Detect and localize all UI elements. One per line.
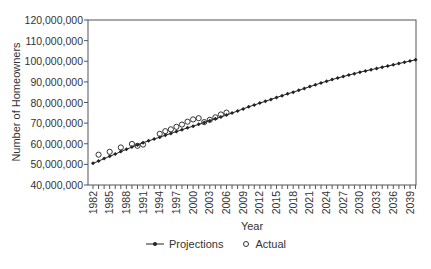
plot-area-frame [88,20,416,185]
projection-point [180,128,184,132]
actual-point [107,149,112,154]
y-tick-label: 90,000,000 [30,76,83,88]
projection-point [147,139,151,143]
projection-point [386,64,390,68]
projection-point [297,88,301,92]
x-tick-label: 2024 [320,191,332,215]
legend-label-projections: Projections [169,238,223,250]
actual-point [168,127,173,132]
projection-point [341,75,345,79]
projection-point [286,92,290,96]
projection-point [186,126,190,130]
x-tick-label: 2036 [387,191,399,215]
projection-point [358,70,362,74]
actual-point [174,124,179,129]
legend: Projections Actual [0,238,431,250]
projection-point [375,66,379,70]
x-tick-label: 2009 [237,191,249,215]
y-tick-label: 70,000,000 [30,117,83,129]
x-tick-label: 2003 [203,191,215,215]
projection-point [402,60,406,64]
projection-point [414,58,418,62]
projection-point [191,124,195,128]
legend-item-projections: Projections [145,238,223,250]
actual-point [191,117,196,122]
y-tick-label: 40,000,000 [30,179,83,191]
projection-point [380,65,384,69]
projection-point [97,159,101,163]
projection-point [308,85,312,89]
projection-point [236,109,240,113]
projection-point [291,90,295,94]
actual-point [163,129,168,134]
projection-point [369,68,373,72]
x-axis-label: Year [241,220,264,232]
x-tick-label: 1991 [137,191,149,215]
y-tick-label: 120,000,000 [25,14,84,26]
actual-point [185,119,190,124]
y-tick-label: 50,000,000 [30,158,83,170]
x-tick-label: 2018 [287,191,299,215]
y-tick-label: 80,000,000 [30,97,83,109]
x-tick-label: 2021 [303,191,315,215]
projection-point [352,72,356,76]
actual-marker-icon [241,239,251,249]
y-axis-label: Number of Homeowners [10,42,22,162]
projection-point [408,59,412,63]
y-tick-label: 60,000,000 [30,138,83,150]
x-tick-label: 2000 [187,191,199,215]
projection-point [252,103,256,107]
x-tick-label: 2033 [370,191,382,215]
x-tick-label: 1997 [170,191,182,215]
projection-point [302,86,306,90]
x-tick-label: 2030 [353,191,365,215]
x-tick-label: 2012 [253,191,265,215]
projection-point [124,147,128,151]
projection-point [330,78,334,82]
x-tick-label: 2015 [270,191,282,215]
projection-point [280,94,284,98]
actual-series [96,110,229,157]
projection-point [313,83,317,87]
projection-point [391,63,395,67]
x-tick-label: 1994 [153,191,165,215]
projection-point [197,122,201,126]
projection-point [397,62,401,66]
projection-point [247,105,251,109]
projections-series [91,58,418,166]
y-tick-label: 100,000,000 [25,55,84,67]
projection-point [325,79,329,83]
x-tick-label: 2027 [337,191,349,215]
projection-point [275,96,279,100]
actual-point [96,152,101,157]
legend-label-actual: Actual [255,238,286,250]
actual-point [118,145,123,150]
x-tick-label: 2006 [220,191,232,215]
x-tick-label: 1985 [103,191,115,215]
projection-point [108,154,112,158]
y-tick-label: 110,000,000 [25,35,83,47]
projection-point [102,157,106,161]
y-axis-title: Number of Homeowners [10,42,22,162]
actual-point [179,122,184,127]
projection-point [241,107,245,111]
legend-item-actual: Actual [241,238,286,250]
projection-point [113,152,117,156]
projection-point [258,101,262,105]
projection-point [364,69,368,73]
x-axis-ticks: 1982198519881991199419972000200320062009… [87,185,416,214]
projection-point [269,97,273,101]
projection-point [174,130,178,134]
x-tick-label: 1988 [120,191,132,215]
projections-marker-icon [145,239,165,249]
projection-point [336,76,340,80]
projection-point [263,99,267,103]
projection-point [91,161,95,165]
projection-point [230,111,234,115]
projection-point [347,73,351,77]
projection-point [152,137,156,141]
actual-point [196,116,201,121]
line-chart: Number of Homeowners 40,000,00050,000,00… [0,0,431,235]
projection-point [319,81,323,85]
x-tick-label: 2039 [404,191,416,215]
